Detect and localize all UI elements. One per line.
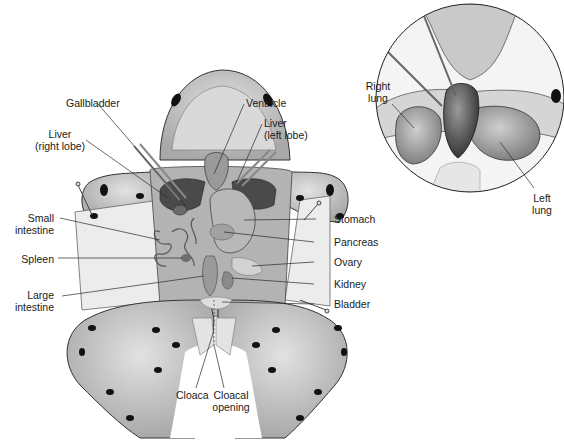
label-right-lung: Right lung bbox=[358, 80, 398, 104]
spleen bbox=[181, 254, 191, 262]
label-spleen: Spleen bbox=[14, 253, 54, 265]
label-bladder: Bladder bbox=[334, 298, 370, 310]
label-ovary: Ovary bbox=[334, 256, 362, 268]
label-liver-right-lobe: Liver (right lobe) bbox=[30, 128, 90, 152]
frog-anatomy-diagram: Gallbladder Ventricle Liver (right lobe)… bbox=[0, 0, 564, 440]
label-ventricle: Ventricle bbox=[246, 97, 286, 109]
label-liver-left-lobe: Liver (left lobe) bbox=[264, 117, 308, 141]
gallbladder bbox=[173, 205, 187, 215]
skin-flap-left bbox=[285, 196, 330, 306]
label-kidney: Kidney bbox=[334, 278, 366, 290]
label-cloacal-opening: Cloacal opening bbox=[204, 389, 258, 413]
label-stomach: Stomach bbox=[334, 213, 375, 225]
stomach bbox=[210, 189, 255, 253]
diagram-artwork bbox=[0, 0, 564, 440]
label-large-intestine: Large intestine bbox=[14, 289, 54, 313]
lung-inset bbox=[376, 4, 564, 192]
label-left-lung: Left lung bbox=[522, 192, 562, 216]
label-small-intestine: Small intestine bbox=[14, 212, 54, 236]
label-pancreas: Pancreas bbox=[334, 236, 378, 248]
pancreas bbox=[210, 224, 234, 240]
label-gallbladder: Gallbladder bbox=[66, 97, 120, 109]
